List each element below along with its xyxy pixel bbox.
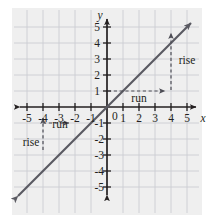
x-axis-label: x [199,112,206,124]
rise-label-right: rise [179,54,196,66]
y-tick-label: 5 [94,21,100,33]
x-tick-label: 1 [120,112,126,124]
x-tick-label: 3 [152,112,158,124]
y-tick-label: 4 [94,37,100,49]
x-tick-label: -4 [38,112,48,124]
x-tick-label: -2 [70,112,80,124]
slope-graph-figure: -5 -4 -3 -2 -1 1 2 3 4 5 5 4 3 2 1 -1 -2… [0,0,219,223]
x-tick-label: 5 [184,112,190,124]
x-tick-label: 4 [168,112,174,124]
y-tick-label: -4 [94,165,104,177]
y-tick-label: -5 [94,181,104,193]
rise-label-left: rise [23,136,40,148]
coordinate-plane-svg: -5 -4 -3 -2 -1 1 2 3 4 5 5 4 3 2 1 -1 -2… [0,0,219,223]
y-tick-label: 2 [94,69,100,81]
x-tick-label: 2 [136,112,142,124]
y-tick-label: 3 [94,53,100,65]
run-label-right: run [131,92,147,104]
run-label-left: run [52,118,68,130]
y-tick-label: -3 [94,149,104,161]
origin-label: 0 [112,110,118,122]
y-tick-label: 1 [94,85,100,97]
y-axis-label: y [96,9,103,22]
y-tick-label: -1 [94,117,104,129]
y-tick-label: -2 [94,133,104,145]
x-tick-label: -5 [22,112,32,124]
